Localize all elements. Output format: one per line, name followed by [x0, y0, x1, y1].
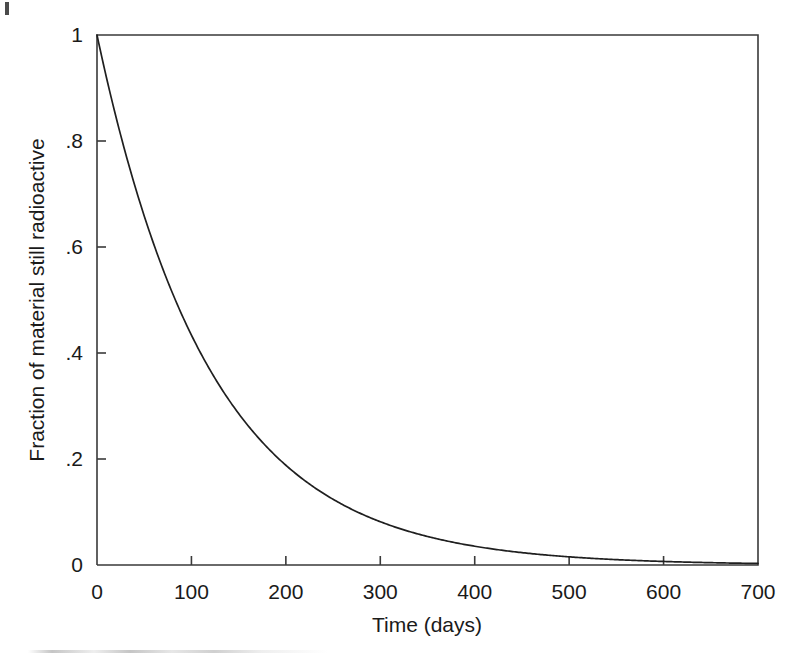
x-tick-label: 100	[174, 580, 209, 603]
y-tick-label: .8	[65, 129, 83, 152]
x-tick-label: 600	[646, 580, 681, 603]
y-tick-label: .2	[65, 447, 83, 470]
x-tick-label: 300	[363, 580, 398, 603]
x-tick-label: 700	[740, 580, 775, 603]
plot-frame	[97, 35, 758, 565]
y-tick-label: 1	[71, 23, 83, 46]
y-tick-label: 0	[71, 553, 83, 576]
y-tick-label: .4	[65, 341, 83, 364]
x-axis-ticks	[191, 556, 663, 565]
x-tick-label: 0	[91, 580, 103, 603]
decay-curve-chart: 0100200300400500600700 0.2.4.6.81 Time (…	[0, 0, 808, 658]
x-axis-title: Time (days)	[372, 613, 482, 636]
x-tick-label: 200	[268, 580, 303, 603]
x-tick-label: 400	[457, 580, 492, 603]
y-axis-title: Fraction of material still radioactive	[25, 138, 48, 461]
y-tick-label: .6	[65, 235, 83, 258]
x-tick-label: 500	[552, 580, 587, 603]
series-line-fraction-remaining	[97, 35, 758, 563]
x-axis-tick-labels: 0100200300400500600700	[91, 580, 775, 603]
y-axis-tick-labels: 0.2.4.6.81	[65, 23, 83, 576]
y-axis-ticks	[97, 141, 106, 459]
figure-canvas: 0100200300400500600700 0.2.4.6.81 Time (…	[0, 0, 808, 658]
